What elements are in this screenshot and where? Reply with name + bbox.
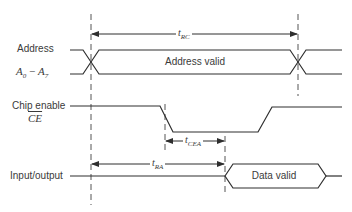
t-rc-label: tRC	[176, 28, 192, 41]
input-output-label: Input/output	[10, 171, 63, 181]
address-range-start-base: A	[16, 65, 23, 77]
address-valid-label: Address valid	[165, 57, 225, 67]
t-cea-sub: CEA	[188, 140, 201, 148]
address-range-end-sub: 7	[45, 72, 49, 80]
t-cea-label: tCEA	[183, 135, 203, 148]
io-waveform	[70, 164, 342, 188]
chip-enable-waveform	[70, 106, 342, 132]
t-ra-label: tRA	[150, 158, 165, 171]
address-range-end-base: A	[38, 65, 45, 77]
address-range-dash: −	[26, 65, 38, 77]
chip-enable-sublabel: CE	[28, 113, 42, 124]
t-ra-sub: RA	[155, 163, 164, 171]
address-range-label: A0 − A7	[16, 66, 48, 80]
data-valid-label: Data valid	[252, 171, 296, 181]
chip-enable-label: Chip enable	[12, 101, 65, 111]
t-rc-sub: RC	[181, 33, 190, 41]
address-label: Address	[17, 44, 54, 54]
